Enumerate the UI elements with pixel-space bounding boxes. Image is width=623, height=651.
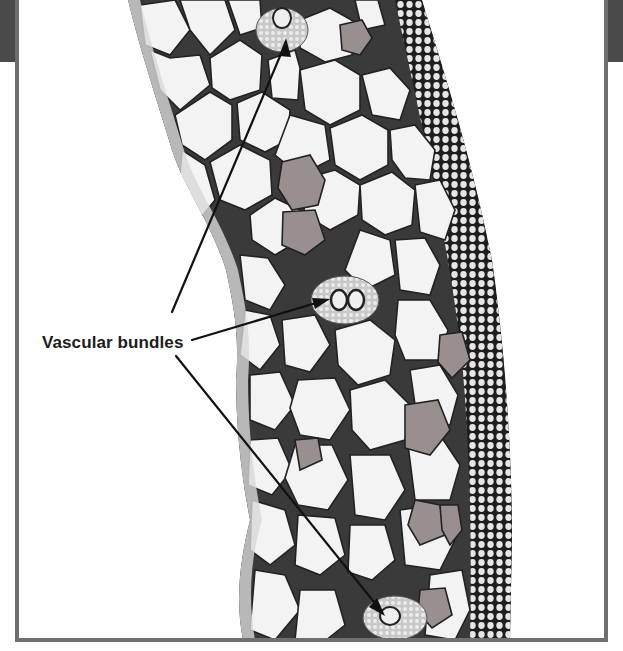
vascular-bundles-label: Vascular bundles (40, 333, 185, 353)
figure-frame (15, 0, 608, 642)
